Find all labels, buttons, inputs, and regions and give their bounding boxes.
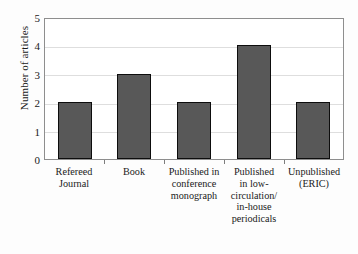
plot-area bbox=[44, 18, 344, 160]
y-tick-label-0: 0 bbox=[16, 155, 40, 166]
x-label-unpublished-eric: Unpublished(ERIC) bbox=[284, 166, 344, 225]
bar-slot-4 bbox=[224, 19, 284, 159]
x-tick-4 bbox=[284, 160, 285, 164]
y-tick-label-2: 2 bbox=[16, 98, 40, 109]
bar-refereed-journal[interactable] bbox=[58, 102, 92, 159]
bar-slot-3 bbox=[164, 19, 224, 159]
x-tick-2 bbox=[164, 160, 165, 164]
x-tick-3 bbox=[224, 160, 225, 164]
bar-slot-2 bbox=[105, 19, 165, 159]
bar-published-low-circulation[interactable] bbox=[237, 45, 271, 159]
y-tick-label-3: 3 bbox=[16, 70, 40, 81]
bars-layer bbox=[45, 19, 343, 159]
y-tick-label-1: 1 bbox=[16, 127, 40, 138]
x-label-book: Book bbox=[104, 166, 164, 225]
y-tick-label-4: 4 bbox=[16, 41, 40, 52]
x-label-published-conference-monograph: Published inconferencemonograph bbox=[164, 166, 224, 225]
x-tick-1 bbox=[104, 160, 105, 164]
bar-chart-figure: Number of articles 5 4 3 2 1 0 bbox=[0, 0, 358, 254]
bar-unpublished-eric[interactable] bbox=[296, 102, 330, 159]
bar-published-conference-monograph[interactable] bbox=[177, 102, 211, 159]
bar-book[interactable] bbox=[117, 74, 151, 159]
x-label-refereed-journal: RefereedJournal bbox=[44, 166, 104, 225]
bar-slot-5 bbox=[283, 19, 343, 159]
y-tick-label-5: 5 bbox=[16, 13, 40, 24]
bar-slot-1 bbox=[45, 19, 105, 159]
x-axis-labels: RefereedJournal Book Published inconfere… bbox=[44, 166, 344, 225]
x-label-published-low-circulation: Publishedin low-circulation/in-houseperi… bbox=[224, 166, 284, 225]
